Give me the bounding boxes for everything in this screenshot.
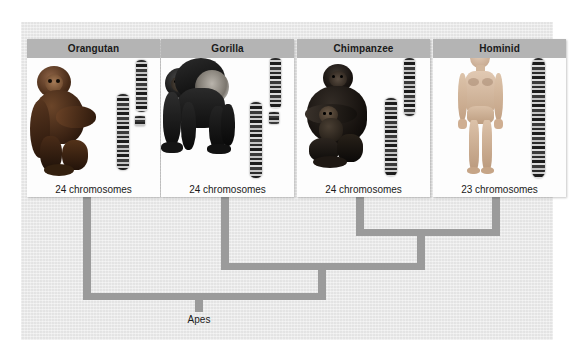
chromosome-fragment bbox=[135, 116, 145, 126]
branch-root bbox=[83, 293, 326, 300]
card-body-hominid bbox=[433, 58, 566, 197]
branch-root-stem bbox=[195, 293, 203, 312]
orangutan-illustration bbox=[28, 60, 110, 176]
chromosome-count-chimpanzee: 24 chromosomes bbox=[297, 184, 430, 195]
chromosome-long bbox=[136, 60, 147, 112]
chromosome-short bbox=[117, 94, 129, 170]
card-body-orangutan bbox=[27, 58, 160, 197]
chromosome-fused bbox=[532, 58, 545, 178]
chromosome-short bbox=[250, 102, 262, 178]
species-name-hominid: Hominid bbox=[433, 39, 566, 58]
figure-panel: Apes Orangutan bbox=[21, 22, 553, 340]
branch-gorilla-stem bbox=[221, 196, 229, 270]
species-card-orangutan[interactable]: Orangutan bbox=[27, 39, 160, 197]
orangutan-chromosome-pair bbox=[110, 58, 154, 178]
chromosome-count-gorilla: 24 chromosomes bbox=[161, 184, 294, 195]
chimpanzee-illustration bbox=[299, 62, 381, 178]
chromosome-count-orangutan: 24 chromosomes bbox=[27, 184, 160, 195]
species-name-chimpanzee: Chimpanzee bbox=[297, 39, 430, 58]
species-card-hominid[interactable]: Hominid bbox=[433, 39, 566, 197]
root-label: Apes bbox=[149, 314, 249, 325]
species-name-orangutan: Orangutan bbox=[27, 39, 160, 58]
species-card-chimpanzee[interactable]: Chimpanzee bbox=[297, 39, 430, 197]
hominid-illustration bbox=[447, 58, 513, 178]
chimpanzee-chromosome-pair bbox=[378, 58, 424, 180]
branch-orangutan-stem bbox=[83, 196, 91, 300]
chromosome-short bbox=[385, 98, 397, 176]
card-body-gorilla bbox=[161, 58, 294, 197]
branch-node-chimp-hominid bbox=[356, 229, 500, 236]
chromosome-fragment bbox=[269, 112, 279, 124]
chromosome-long bbox=[404, 58, 415, 116]
gorilla-chromosome-pair bbox=[244, 58, 290, 182]
hominid-chromosome-single bbox=[522, 58, 556, 182]
figure-root: Apes Orangutan bbox=[0, 0, 573, 354]
species-card-gorilla[interactable]: Gorilla bbox=[161, 39, 294, 197]
chromosome-long bbox=[270, 58, 281, 108]
species-name-gorilla: Gorilla bbox=[161, 39, 294, 58]
gorilla-illustration bbox=[161, 58, 243, 174]
card-body-chimpanzee bbox=[297, 58, 430, 197]
chromosome-count-hominid: 23 chromosomes bbox=[433, 184, 566, 195]
